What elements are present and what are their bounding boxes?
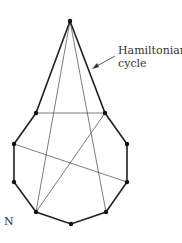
edge-b-bl [36, 113, 105, 212]
vertex-bl [34, 210, 38, 214]
vertex-l2 [12, 180, 16, 184]
vertex-l1 [12, 142, 16, 146]
vertex-r2 [125, 180, 129, 184]
vertex-b [103, 111, 107, 115]
edge-l1-r2 [14, 144, 127, 182]
vertex-bm [69, 222, 73, 226]
edge-t-bl [36, 21, 70, 212]
edge-t-br [70, 21, 106, 212]
hamiltonian-cycle [14, 21, 127, 224]
arrow-head-icon [92, 63, 99, 69]
vertex-br [104, 210, 108, 214]
vertex-r1 [125, 142, 129, 146]
graph-diagram: Hamiltonian cycle N [0, 0, 182, 243]
annotation-arrow [92, 56, 115, 69]
annotation-line1: Hamiltonian [118, 44, 182, 57]
vertex-a [34, 111, 38, 115]
vertex-t [68, 19, 72, 23]
other-edges [14, 21, 127, 212]
hamiltonian-cycle-path [14, 21, 127, 224]
annotation-line2: cycle [118, 57, 147, 70]
corner-label: N [4, 215, 14, 228]
